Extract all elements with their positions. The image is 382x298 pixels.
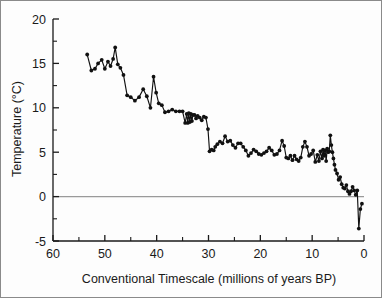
data-point [275, 152, 279, 156]
data-point [280, 139, 284, 143]
data-point [343, 187, 347, 191]
data-point [152, 75, 156, 79]
x-axis-tick-labels: 6050403020100 [46, 247, 367, 261]
data-point [116, 62, 120, 66]
data-point [355, 188, 359, 192]
data-point [293, 154, 297, 158]
data-point [358, 207, 362, 211]
data-point [96, 62, 100, 66]
data-point [297, 159, 301, 163]
data-point [335, 172, 339, 176]
y-tick-label: 20 [32, 13, 46, 27]
data-point [89, 69, 93, 73]
y-axis-tick-labels: 20151050-5 [32, 13, 46, 249]
data-point [181, 109, 185, 113]
data-point [357, 227, 361, 231]
x-tick-label: 0 [361, 247, 368, 261]
data-point [330, 150, 334, 154]
data-point [141, 87, 145, 91]
data-point [305, 145, 309, 149]
data-point [221, 141, 225, 145]
data-point [329, 143, 333, 147]
data-point [301, 145, 305, 149]
data-point [249, 151, 253, 155]
data-point [149, 106, 153, 110]
data-point [313, 160, 317, 164]
data-point [360, 202, 364, 206]
figure-frame: 6050403020100 20151050-5 Temperature (°C… [0, 0, 382, 298]
data-point [332, 157, 336, 161]
data-point [129, 95, 133, 99]
chart-canvas: 6050403020100 20151050-5 Temperature (°C… [1, 1, 382, 298]
data-point [206, 127, 210, 131]
data-point [344, 183, 348, 187]
data-point [278, 149, 282, 153]
data-point [170, 108, 174, 112]
data-point [265, 149, 269, 153]
data-point [137, 95, 141, 99]
data-point [311, 149, 315, 153]
x-tick-label: 60 [46, 247, 60, 261]
data-point [322, 154, 326, 158]
data-point [328, 133, 332, 137]
data-point [125, 93, 129, 97]
y-axis-title: Temperature (°C) [10, 81, 24, 177]
data-point [122, 73, 126, 77]
x-tick-label: 20 [253, 247, 267, 261]
data-point [190, 119, 194, 123]
y-tick-label: 0 [39, 190, 46, 204]
data-point [204, 116, 208, 120]
data-point [282, 144, 286, 148]
data-point [113, 46, 117, 50]
data-point [145, 94, 149, 98]
data-point [289, 154, 293, 158]
x-axis-title: Conventional Timescale (millions of year… [82, 272, 336, 286]
data-point [309, 152, 313, 156]
data-point [228, 139, 232, 143]
data-point [299, 156, 303, 160]
data-point [241, 145, 245, 149]
x-tick-label: 30 [202, 247, 216, 261]
data-point [291, 158, 295, 162]
data-point [324, 159, 328, 163]
data-point [234, 146, 238, 150]
x-tick-label: 10 [305, 247, 319, 261]
data-point [270, 149, 274, 153]
data-point [244, 149, 248, 153]
data-point [85, 53, 89, 57]
data-point [334, 168, 338, 172]
y-tick-label: 15 [32, 57, 46, 71]
data-point [160, 103, 164, 107]
data-point [106, 60, 110, 64]
data-point [167, 109, 171, 113]
temperature-timescale-chart: 6050403020100 20151050-5 Temperature (°C… [1, 1, 382, 298]
y-tick-label: 10 [32, 101, 46, 115]
data-point [174, 109, 178, 113]
data-point [351, 185, 355, 189]
data-point [354, 193, 358, 197]
data-point [118, 66, 122, 70]
data-point [338, 175, 342, 179]
y-tick-label: -5 [35, 235, 46, 249]
data-point [200, 118, 204, 122]
data-point [340, 182, 344, 186]
data-point [154, 91, 158, 95]
data-point [100, 58, 104, 62]
data-point [303, 140, 307, 144]
y-tick-label: 5 [39, 146, 46, 160]
x-tick-label: 40 [150, 247, 164, 261]
data-point [133, 99, 137, 103]
x-tick-label: 50 [98, 247, 112, 261]
data-point [111, 57, 115, 61]
data-point-markers [85, 46, 364, 231]
data-point [315, 153, 319, 157]
data-point [239, 141, 243, 145]
data-point [103, 67, 107, 71]
data-point [109, 64, 113, 68]
data-point [93, 67, 97, 71]
data-point [223, 134, 227, 138]
data-point [317, 159, 321, 163]
data-point [333, 163, 337, 167]
data-point [212, 149, 216, 153]
data-point [163, 110, 167, 114]
